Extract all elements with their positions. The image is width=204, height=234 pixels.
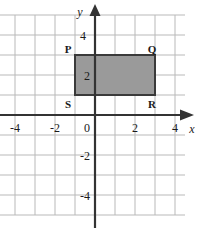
y-tick-label--4: -4 <box>80 189 90 203</box>
x-tick-label-2: 2 <box>132 121 138 135</box>
vertex-label-r: R <box>148 98 157 110</box>
vertex-label-q: Q <box>148 43 157 55</box>
x-tick-label--4: -4 <box>10 121 20 135</box>
x-axis-label: x <box>188 122 195 136</box>
y-tick-label-2: 2 <box>84 69 90 83</box>
vertex-label-p: P <box>65 43 72 55</box>
coordinate-plane-figure: x y -4 -2 2 4 0 4 2 -2 -4 P Q R S <box>0 0 204 234</box>
x-tick-label-4: 4 <box>172 121 178 135</box>
x-tick-label--2: -2 <box>50 121 60 135</box>
origin-label: 0 <box>84 121 90 135</box>
y-tick-label--2: -2 <box>80 149 90 163</box>
y-axis-label: y <box>76 5 83 19</box>
coordinate-plane-svg: x y -4 -2 2 4 0 4 2 -2 -4 P Q R S <box>0 0 204 234</box>
y-tick-label-4: 4 <box>80 29 86 43</box>
vertex-label-s: S <box>65 98 71 110</box>
